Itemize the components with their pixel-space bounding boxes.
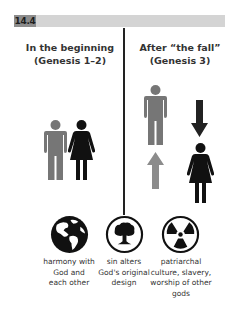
caption-patriarchal: patriarchal culture, slavery, worship of… (148, 257, 214, 299)
figure-number-label: 14.4 (14, 15, 36, 27)
man-elevated-icon (143, 85, 168, 146)
left-heading-title: In the beginning (20, 41, 120, 54)
radiation-icon (161, 215, 200, 254)
down-arrow-icon (191, 100, 208, 137)
woman-icon (67, 120, 96, 181)
caption-sin-alters: sin alters God's original design (94, 257, 154, 289)
woman-lowered-icon (186, 142, 215, 205)
right-heading-title: After “the fall” (130, 41, 230, 54)
caption-harmony: harmony with God and each other (39, 257, 99, 289)
left-heading-subtitle: (Genesis 1–2) (20, 54, 120, 67)
right-column-heading: After “the fall” (Genesis 3) (130, 41, 230, 67)
globe-icon (50, 215, 89, 254)
column-divider (123, 28, 125, 215)
left-column-heading: In the beginning (Genesis 1–2) (20, 41, 120, 67)
figure-header-bar (14, 15, 225, 27)
mushroom-cloud-icon (105, 215, 144, 254)
right-heading-subtitle: (Genesis 3) (130, 54, 230, 67)
up-arrow-icon (147, 152, 164, 189)
man-icon (43, 120, 68, 181)
